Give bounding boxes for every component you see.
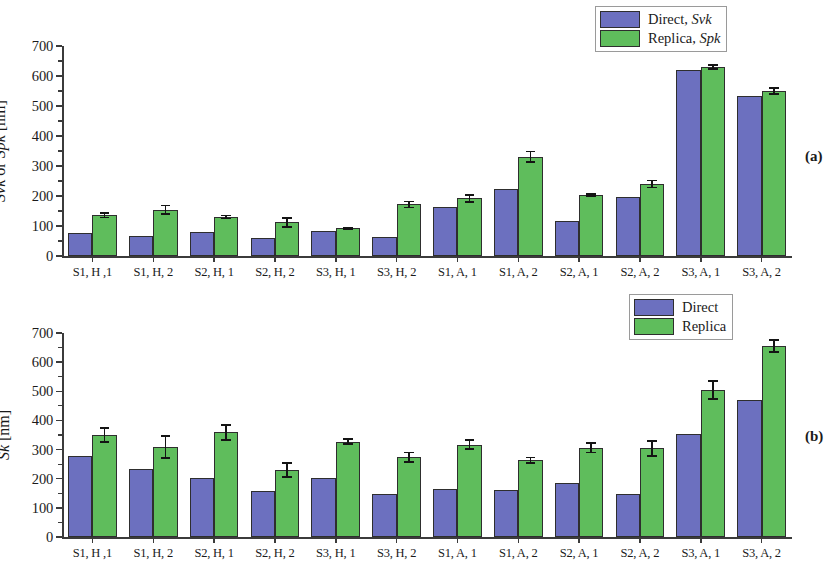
x-tick-label-a-10: S3, A, 1 [681, 265, 720, 280]
x-tick-label-a-2: S2, H, 1 [194, 265, 233, 280]
x-tick-a-3 [274, 256, 276, 262]
error-cap-a-0-lower [100, 217, 110, 219]
error-cap-a-2-lower [221, 218, 231, 220]
x-tick-a-2 [213, 256, 215, 262]
bar-a-replica-10 [701, 67, 725, 256]
bar-b-direct-11 [737, 400, 761, 537]
legend-label-direct: Direct [682, 300, 718, 315]
y-tick-label-b-0: 0 [46, 530, 53, 545]
x-tick-a-11 [761, 256, 763, 262]
error-bar-b-2 [225, 425, 227, 440]
bar-b-replica-8 [579, 448, 603, 537]
bar-b-replica-9 [640, 448, 664, 537]
legend-row-replica[interactable]: Replica [634, 317, 726, 336]
error-cap-b-5-upper [404, 452, 414, 454]
error-cap-a-5-lower [404, 207, 414, 209]
y-tick-a-600 [56, 75, 62, 77]
error-cap-a-2-upper [221, 215, 231, 217]
error-cap-a-11-upper [769, 87, 779, 89]
error-cap-a-11-lower [769, 93, 779, 95]
x-tick-b-2 [213, 537, 215, 543]
bar-a-replica-1 [153, 210, 177, 256]
x-tick-b-10 [700, 537, 702, 543]
bar-b-direct-8 [555, 483, 579, 537]
legend-swatch-replica-icon [600, 30, 640, 47]
bar-a-direct-7 [494, 189, 518, 256]
error-cap-a-1-upper [161, 205, 171, 207]
bar-b-replica-11 [762, 346, 786, 537]
x-tick-a-5 [396, 256, 398, 262]
y-tick-a-100 [56, 225, 62, 227]
x-tick-label-a-4: S3, H, 1 [316, 265, 355, 280]
bar-a-direct-10 [676, 70, 700, 256]
legend-row-replica[interactable]: Replica, Spk [600, 29, 720, 48]
bar-b-direct-5 [372, 494, 396, 537]
x-tick-label-b-6: S1, A, 1 [438, 546, 477, 561]
y-minor-tick-a-550 [58, 90, 62, 91]
bar-a-replica-0 [92, 215, 116, 256]
x-tick-a-6 [457, 256, 459, 262]
y-tick-label-b-100: 100 [32, 501, 53, 516]
y-minor-tick-b-550 [58, 376, 62, 377]
x-tick-b-0 [92, 537, 94, 543]
error-cap-a-7-upper [526, 151, 536, 153]
x-tick-label-b-11: S3, A, 2 [742, 546, 781, 561]
legend-swatch-direct-icon [634, 299, 674, 316]
y-tick-label-a-200: 200 [32, 189, 53, 204]
y-tick-b-200 [56, 478, 62, 480]
y-minor-tick-b-350 [58, 434, 62, 435]
y-tick-a-300 [56, 165, 62, 167]
bar-b-direct-1 [129, 469, 153, 537]
x-tick-label-a-5: S3, H, 2 [377, 265, 416, 280]
plot-area-b: 0100200300400500600700Sk [nm]S1, H ,1S1,… [62, 333, 792, 537]
x-tick-a-7 [518, 256, 520, 262]
x-tick-label-b-2: S2, H, 1 [194, 546, 233, 561]
y-minor-tick-a-50 [58, 240, 62, 241]
y-minor-tick-a-450 [58, 120, 62, 121]
x-tick-a-10 [700, 256, 702, 262]
error-cap-a-1-lower [161, 213, 171, 215]
y-minor-tick-a-650 [58, 60, 62, 61]
bar-b-direct-10 [676, 434, 700, 537]
y-tick-b-700 [56, 332, 62, 334]
y-minor-tick-a-150 [58, 210, 62, 211]
bar-a-direct-2 [190, 232, 214, 256]
error-cap-b-7-lower [526, 462, 536, 464]
x-tick-label-a-8: S2, A, 1 [560, 265, 599, 280]
y-minor-tick-b-50 [58, 522, 62, 523]
y-tick-label-a-500: 500 [32, 99, 53, 114]
bar-b-replica-4 [336, 442, 360, 537]
y-tick-label-a-400: 400 [32, 129, 53, 144]
legend-label-replica: Replica, Spk [648, 31, 720, 46]
y-tick-a-500 [56, 105, 62, 107]
x-tick-b-5 [396, 537, 398, 543]
bar-b-direct-4 [311, 478, 335, 537]
bar-b-replica-0 [92, 435, 116, 537]
bar-b-replica-3 [275, 470, 299, 537]
x-tick-label-b-10: S3, A, 1 [681, 546, 720, 561]
x-tick-b-9 [639, 537, 641, 543]
x-axis-line-a [62, 256, 792, 258]
error-cap-a-5-upper [404, 201, 414, 203]
legend-row-direct[interactable]: Direct, Svk [600, 10, 720, 29]
error-cap-a-10-lower [708, 68, 718, 70]
bar-a-direct-0 [68, 233, 92, 256]
y-tick-label-a-100: 100 [32, 219, 53, 234]
y-tick-label-a-300: 300 [32, 159, 53, 174]
y-tick-b-500 [56, 391, 62, 393]
legend-row-direct[interactable]: Direct [634, 298, 726, 317]
x-tick-label-b-5: S3, H, 2 [377, 546, 416, 561]
y-tick-b-100 [56, 507, 62, 509]
error-cap-a-6-lower [465, 201, 475, 203]
y-minor-tick-a-250 [58, 180, 62, 181]
error-cap-a-8-lower [586, 195, 596, 197]
error-cap-a-10-upper [708, 64, 718, 66]
x-tick-label-a-3: S2, H, 2 [255, 265, 294, 280]
y-tick-a-700 [56, 45, 62, 47]
error-cap-b-6-lower [465, 448, 475, 450]
x-tick-b-3 [274, 537, 276, 543]
y-tick-label-a-600: 600 [32, 69, 53, 84]
x-tick-label-a-9: S2, A, 2 [621, 265, 660, 280]
x-tick-a-8 [578, 256, 580, 262]
y-tick-label-b-200: 200 [32, 471, 53, 486]
